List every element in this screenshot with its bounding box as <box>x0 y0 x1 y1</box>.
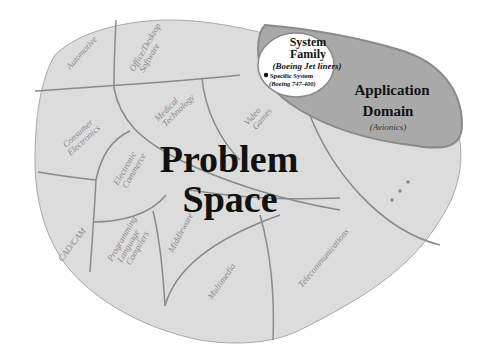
system-family-label-line2: Family <box>290 47 326 61</box>
title-space: Space <box>183 178 278 220</box>
problem-space-diagram: Automotive Office/Desktop Software Consu… <box>0 0 484 363</box>
application-domain-label-line2: Domain <box>363 103 414 119</box>
application-domain-label-line1: Application <box>354 82 430 98</box>
specific-system-example: (Boeing 747-400) <box>269 80 316 88</box>
title-problem: Problem <box>160 138 299 180</box>
specific-system-label: Specific System <box>270 72 314 79</box>
application-domain-example: (Avionics) <box>370 122 407 132</box>
specific-system-marker <box>264 73 268 77</box>
system-family-example: (Boeing Jet liners) <box>273 61 342 71</box>
